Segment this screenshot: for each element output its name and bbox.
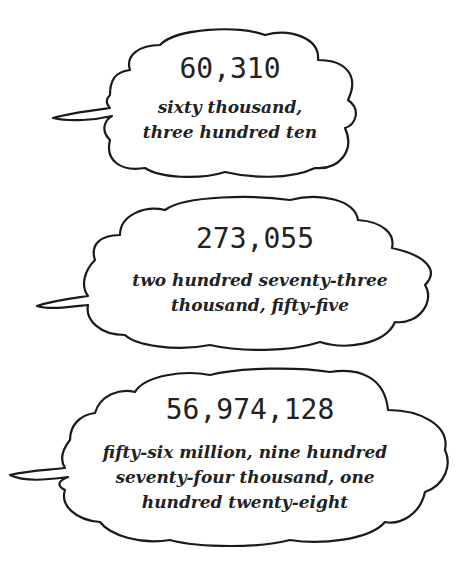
number-numeral-1: 60,310: [120, 52, 340, 85]
words-line: three hundred ten: [95, 120, 365, 145]
number-numeral-3: 56,974,128: [120, 393, 380, 426]
words-line: thousand, fifty-five: [90, 293, 430, 318]
words-line: seventy-four thousand, one: [60, 465, 430, 490]
words-line: fifty-six million, nine hundred: [60, 440, 430, 465]
number-words-3: fifty-six million, nine hundred seventy-…: [60, 440, 430, 515]
words-line: hundred twenty-eight: [60, 490, 430, 515]
words-line: two hundred seventy-three: [90, 268, 430, 293]
number-words-2: two hundred seventy-three thousand, fift…: [90, 268, 430, 318]
number-numeral-2: 273,055: [130, 222, 380, 255]
words-line: sixty thousand,: [95, 95, 365, 120]
number-words-1: sixty thousand, three hundred ten: [95, 95, 365, 145]
